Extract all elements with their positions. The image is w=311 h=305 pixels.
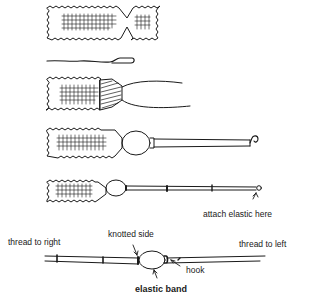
label-thread-to-right: thread to right [8, 238, 60, 247]
arrow-attach-elastic [253, 193, 258, 199]
fabric-bead-segmented-rod [47, 180, 261, 202]
label-knotted-side: knotted side [108, 230, 154, 239]
label-attach-elastic: attach elastic here [203, 210, 272, 219]
diagram-canvas [0, 0, 311, 305]
label-elastic-band: elastic band [135, 285, 187, 294]
arrow-elastic-band [153, 270, 157, 278]
label-thread-to-left: thread to left [239, 240, 286, 249]
fabric-gathered [46, 77, 190, 110]
fabric-bead-rod-hook [47, 128, 258, 158]
joined-threads [45, 245, 265, 278]
label-hook: hook [186, 266, 204, 275]
arrow-knotted-side [133, 245, 138, 255]
fabric-strip-pinched [47, 6, 160, 40]
hook-wire [47, 58, 134, 63]
